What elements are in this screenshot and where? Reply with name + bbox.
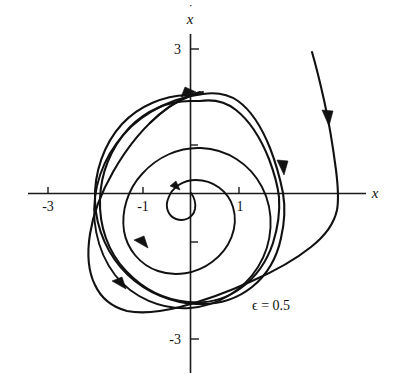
x-tick-label-1: 1	[237, 199, 244, 214]
x-axis-label: x	[371, 185, 379, 201]
labels-group: -3 -1 1 3 -3 x ˙ x ϵ = 0.5	[42, 1, 379, 347]
y-tick-label-3: 3	[174, 42, 181, 57]
axes-group	[28, 34, 366, 373]
y-tick-label--3: -3	[169, 332, 181, 347]
arrow-outer-lower-left-icon	[112, 277, 126, 289]
y-axis-label: x	[186, 11, 194, 27]
arrow-transient-icon	[322, 110, 333, 126]
trajectories-group	[88, 52, 338, 312]
arrowheads-group	[112, 87, 333, 289]
phase-portrait-figure: -3 -1 1 3 -3 x ˙ x ϵ = 0.5	[0, 0, 401, 382]
x-tick-label--3: -3	[42, 199, 54, 214]
epsilon-label: ϵ = 0.5	[252, 298, 290, 313]
x-tick-label--1: -1	[137, 199, 149, 214]
arrow-mid-spiral-icon	[134, 236, 148, 248]
phase-plot-svg: -3 -1 1 3 -3 x ˙ x ϵ = 0.5	[0, 0, 401, 382]
